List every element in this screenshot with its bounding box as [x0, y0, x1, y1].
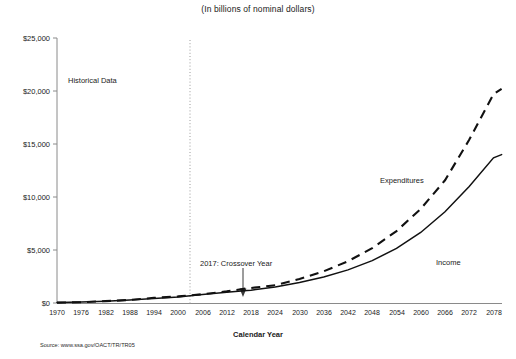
chart-plot-area: [0, 0, 516, 359]
y-tick-label-0: $0: [2, 299, 50, 308]
x-axis-title: Calendar Year: [0, 330, 516, 339]
y-tick-label-5000: $5,000: [2, 246, 50, 255]
y-tick-label-20000: $20,000: [2, 87, 50, 96]
y-tick-label-10000: $10,000: [2, 193, 50, 202]
series-label-expenditures: Expenditures: [380, 176, 424, 185]
series-label-income: Income: [436, 258, 461, 267]
y-tick-label-25000: $25,000: [2, 34, 50, 43]
source-note: Source: www.ssa.gov/OACT/TR/TR05: [40, 342, 135, 348]
crossover-arrow-icon: [240, 268, 247, 297]
x-tick-label-2078: 2078: [479, 309, 509, 316]
y-tick-marks: [53, 38, 57, 303]
series-line-expenditures: [57, 89, 502, 303]
series-line-income: [57, 155, 502, 303]
annotation-historical-data: Historical Data: [68, 76, 117, 85]
y-tick-label-15000: $15,000: [2, 140, 50, 149]
annotation-crossover-year: 2017: Crossover Year: [200, 259, 272, 268]
chart-page: (In billions of nominal dollars) $25,000…: [0, 0, 516, 359]
